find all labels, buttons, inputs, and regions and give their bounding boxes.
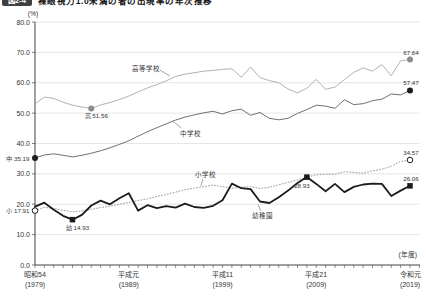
series-line-kindergarten <box>35 177 410 220</box>
series-line-high-school <box>35 60 410 109</box>
series-label-leader <box>201 179 203 186</box>
series-label-leader <box>258 205 261 211</box>
marker-value-label: 26.06 <box>403 175 419 182</box>
figure-number-badge: 図2-4 <box>2 0 32 6</box>
series-line-junior-high-school <box>35 90 410 158</box>
series-label: 幼稚園 <box>252 211 273 220</box>
marker-value-label: 小 17.91 <box>6 207 30 215</box>
marker-value-label: 幼 14.93 <box>66 224 90 232</box>
y-tick-label: 0.0 <box>20 262 30 269</box>
marker-value-label: 高 51.56 <box>85 112 109 120</box>
marker-square-幼稚園 <box>70 217 76 223</box>
marker-square-幼稚園 <box>407 183 413 189</box>
marker-circle-高等学校 <box>407 57 413 63</box>
marker-open-circle-小学校 <box>407 157 413 163</box>
marker-value-label: 57.47 <box>403 79 419 86</box>
marker-square-幼稚園 <box>304 174 310 180</box>
x-tick-era-label: 平成元 <box>118 270 139 279</box>
figure-title-row: 図2-4 裸眼視力1.0未満の者の出現率の年次推移 <box>2 0 213 6</box>
marker-value-label: 67.64 <box>403 49 419 56</box>
figure-page: 0.010.020.030.040.050.060.070.080.0(%)昭和… <box>0 0 426 297</box>
y-tick-label: 60.0 <box>16 79 30 86</box>
marker-value-label: 中 35.19 <box>6 155 30 163</box>
y-axis-unit-label: (%) <box>28 10 39 18</box>
y-tick-label: 80.0 <box>16 19 30 26</box>
x-tick-era-label: 平成21 <box>305 270 327 279</box>
series-label-leader <box>173 121 181 128</box>
y-tick-label: 70.0 <box>16 49 30 56</box>
x-tick-era-label: 昭和54 <box>24 270 46 279</box>
y-tick-label: 30.0 <box>16 170 30 177</box>
marker-circle-中学校 <box>32 155 38 161</box>
series-label: 小学校 <box>195 170 216 179</box>
series-label: 中学校 <box>180 129 201 138</box>
x-axis-unit-label: (年度) <box>398 250 417 259</box>
x-tick-era-label: 令和元 <box>400 270 421 279</box>
x-tick-era-label: 平成11 <box>212 270 233 279</box>
marker-value-label: 34.57 <box>403 149 419 156</box>
x-tick-year-label: (2009) <box>306 281 326 289</box>
x-tick-year-label: (2019) <box>400 281 420 289</box>
x-tick-year-label: (1989) <box>119 281 139 289</box>
y-tick-label: 40.0 <box>16 140 30 147</box>
series-label-leader <box>160 70 170 76</box>
marker-circle-高等学校 <box>88 105 94 111</box>
marker-circle-中学校 <box>407 87 413 93</box>
x-tick-year-label: (1999) <box>212 281 232 289</box>
y-tick-label: 10.0 <box>16 231 30 238</box>
marker-value-label: 28.93 <box>294 182 310 189</box>
figure-title: 裸眼視力1.0未満の者の出現率の年次推移 <box>38 0 213 6</box>
x-tick-year-label: (1979) <box>25 281 45 289</box>
marker-open-circle-小学校 <box>32 208 38 214</box>
line-chart: 0.010.020.030.040.050.060.070.080.0(%)昭和… <box>0 0 426 297</box>
series-label: 高等学校 <box>132 64 160 73</box>
y-tick-label: 50.0 <box>16 110 30 117</box>
